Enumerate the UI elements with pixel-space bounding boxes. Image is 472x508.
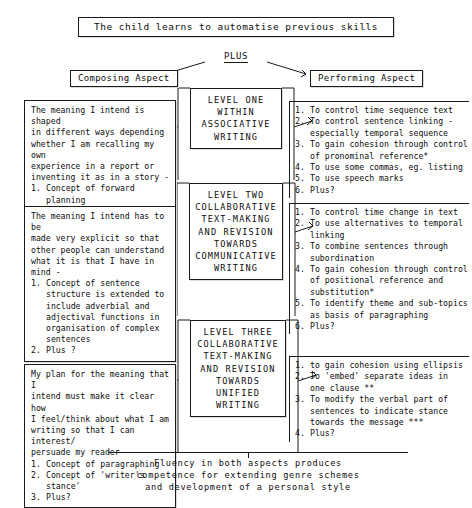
plus-text: PLUS [224, 51, 248, 63]
list-item: 5.To use speech marks [295, 173, 469, 184]
list-item-text: To gain cohesion through controlof posit… [310, 264, 469, 298]
text-line: Plus? [310, 321, 469, 332]
text-line: especially temporal sequence [310, 128, 469, 139]
text-line: To gain cohesion through control [310, 139, 469, 150]
text-line: whether I am recalling my own [31, 139, 170, 161]
list-item: 1.to gain cohesion using ellipsis [295, 360, 469, 371]
text-line: AND REVISION [192, 226, 280, 238]
numbered-list: 1.Concept of sentencestructure is extend… [31, 278, 170, 356]
list-item-text: To modify the verbal part ofsentences to… [310, 394, 469, 428]
text-line: The meaning I intend has to be [31, 211, 170, 233]
list-item: 1.To control time change in text [295, 207, 469, 218]
list-item-number: 3. [295, 241, 310, 264]
text-line: The meaning I intend is shaped [31, 105, 170, 127]
list-item-text: Plus ? [46, 345, 170, 356]
list-item-text: To control sentence linking -especially … [310, 116, 469, 139]
list-item-text: To identify theme and sub-topicsas basis… [310, 298, 469, 321]
list-item: 5.To identify theme and sub-topicsas bas… [295, 298, 469, 321]
text-line: what it is that I have in mind - [31, 256, 170, 278]
text-line: structure is extended to [46, 289, 170, 300]
list-item-text: Plus? [310, 321, 469, 332]
text-line: COMMUNICATIVE [192, 250, 280, 262]
page-title: The child learns to automatise previous … [78, 17, 394, 37]
level-one-lines: LEVEL ONEWITHINASSOCIATIVEWRITING [193, 94, 279, 143]
text-line: To 'embed' separate ideas in [310, 371, 469, 382]
numbered-list: 1.To control time sequence text2.To cont… [295, 105, 469, 196]
list-item: 1.Concept of sentencestructure is extend… [31, 278, 170, 345]
list-item-text: Plus? [310, 428, 469, 439]
text-line: To use some commas, eg. listing [310, 162, 469, 173]
level-two-lines: LEVEL TWOCOLLABORATIVETEXT-MAKINGAND REV… [192, 189, 280, 274]
list-item-number: 3. [295, 394, 310, 428]
text-line: competence for extending genre schemes [78, 469, 418, 481]
level-one-box: LEVEL ONEWITHINASSOCIATIVEWRITING [190, 88, 282, 149]
text-line: Concept of forward planning [46, 183, 170, 205]
text-line: and development of a personal style [78, 481, 418, 493]
list-item: 3.To combine sentences throughsubordinat… [295, 241, 469, 264]
list-item-number: 3. [31, 492, 46, 503]
list-item-text: to gain cohesion using ellipsis [310, 360, 469, 371]
text-line: Plus? [310, 428, 469, 439]
list-item-text: Plus? [46, 492, 170, 503]
level-three-lines: LEVEL THREECOLLABORATIVETEXT-MAKINGAND R… [193, 326, 283, 411]
list-item: 3.To gain cohesion through controlof pro… [295, 139, 469, 162]
text-line: WRITING [193, 131, 279, 143]
list-item-number: 1. [31, 459, 46, 470]
text-line: To use alternatives to temporal [310, 218, 469, 229]
level-two-box: LEVEL TWOCOLLABORATIVETEXT-MAKINGAND REV… [189, 183, 283, 280]
performing-detail-level-three: 1.to gain cohesion using ellipsis2.To 'e… [289, 356, 469, 442]
text-line: To control sentence linking - [310, 116, 469, 127]
text-line: To gain cohesion through control [310, 264, 469, 275]
intro-text: My plan for the meaning that Iintend mus… [31, 369, 170, 459]
text-line: To control time change in text [310, 207, 469, 218]
arrow-plus-to-performing [267, 62, 306, 74]
list-item: 2.To control sentence linking -especiall… [295, 116, 469, 139]
plus-label: PLUS [205, 51, 267, 61]
list-item-number: 5. [295, 173, 310, 184]
text-line: LEVEL TWO [192, 189, 280, 201]
text-line: WRITING [192, 262, 280, 274]
text-line: towards the message *** [310, 417, 469, 428]
text-line: other people can understand [31, 245, 170, 256]
footer-text: Fluency in both aspects producescompeten… [78, 457, 418, 493]
text-line: experience in a report or [31, 161, 170, 172]
text-line: To combine sentences through [310, 241, 469, 252]
text-line: TOWARDS [192, 238, 280, 250]
numbered-list: 1.to gain cohesion using ellipsis2.To 'e… [295, 360, 469, 440]
text-line: LEVEL THREE [193, 326, 283, 338]
text-line: writing so that I can interest/ [31, 425, 170, 447]
list-item-number: 2. [295, 371, 310, 394]
list-item-number: 4. [295, 264, 310, 298]
text-line: adjectival functions in [46, 312, 170, 323]
text-line: To use speech marks [310, 173, 469, 184]
text-line: intend must make it clear how [31, 391, 170, 413]
list-item-text: To combine sentences throughsubordinatio… [310, 241, 469, 264]
text-line: of pronominal reference* [310, 151, 469, 162]
text-line: LEVEL ONE [193, 94, 279, 106]
text-line: To control time sequence text [310, 105, 469, 116]
list-item-number: 1. [295, 207, 310, 218]
list-item: 1.To control time sequence text [295, 105, 469, 116]
composing-detail-level-two: The meaning I intend has to bemade very … [24, 206, 176, 362]
text-line: of positional reference and [310, 275, 469, 286]
text-line: WITHIN [193, 106, 279, 118]
list-item-number: 2. [31, 470, 46, 492]
text-line: linking [310, 230, 469, 241]
list-item-number: 5. [295, 298, 310, 321]
text-line: TEXT-MAKING [192, 213, 280, 225]
list-item-number: 1. [31, 278, 46, 345]
text-line: ASSOCIATIVE [193, 118, 279, 130]
list-item: 4.To use some commas, eg. listing [295, 162, 469, 173]
list-item: 2.To use alternatives to temporallinking [295, 218, 469, 241]
text-line: I feel/think about what I am [31, 414, 170, 425]
text-line: sentences [46, 334, 170, 345]
list-item-text: To use some commas, eg. listing [310, 162, 469, 173]
list-item-number: 2. [31, 345, 46, 356]
text-line: Concept of sentence [46, 278, 170, 289]
list-item-text: Plus? [310, 185, 469, 196]
list-item-text: To control time sequence text [310, 105, 469, 116]
text-line: in different ways depending [31, 127, 170, 138]
text-line: My plan for the meaning that I [31, 369, 170, 391]
list-item-text: To use alternatives to temporallinking [310, 218, 469, 241]
